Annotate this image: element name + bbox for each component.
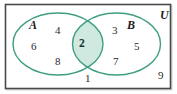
element-a-only-3: 8	[55, 56, 61, 67]
element-outside-1: 1	[85, 73, 91, 84]
element-a-only-2: 6	[31, 41, 37, 52]
venn-diagram-figure: A B U 4 6 8 2 3 5 7 1 9	[0, 0, 177, 94]
element-outside-2: 9	[158, 70, 164, 81]
element-b-only-2: 5	[134, 41, 140, 52]
element-b-only-1: 3	[112, 25, 118, 36]
element-intersection-1: 2	[79, 38, 85, 50]
element-b-only-3: 7	[113, 56, 119, 67]
set-b-label: B	[127, 19, 135, 31]
universal-set-label: U	[160, 9, 169, 21]
element-a-only-1: 4	[55, 25, 61, 36]
set-a-label: A	[29, 19, 37, 31]
